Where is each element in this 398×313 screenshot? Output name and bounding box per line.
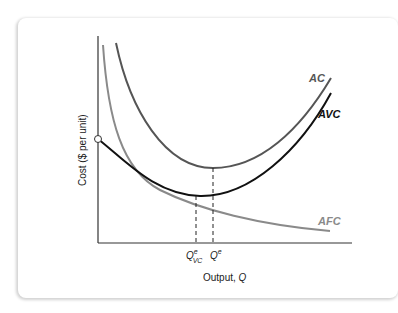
x-axis-var: Q <box>239 272 247 283</box>
ac-label: AC <box>308 72 326 84</box>
q-e-label: Qe <box>210 248 222 261</box>
y-axis-title: Cost ($ per unit) <box>77 114 88 186</box>
avc-intercept-marker <box>95 136 102 143</box>
avc-curve <box>98 93 331 196</box>
afc-label: AFC <box>317 215 342 227</box>
ac-curve <box>116 43 331 168</box>
avc-label: AVC <box>317 108 341 120</box>
q-vc-sup: e <box>194 248 198 255</box>
x-axis-text: Output, <box>203 272 239 283</box>
x-axis-title: Output, Q <box>203 272 247 283</box>
q-vc-label: QeVC <box>186 248 203 264</box>
q-vc-sub: VC <box>193 257 204 264</box>
afc-curve <box>103 45 330 231</box>
q-e-sup: e <box>218 248 222 255</box>
